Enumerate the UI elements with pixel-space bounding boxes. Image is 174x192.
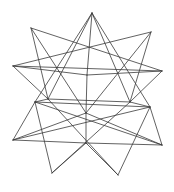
edge-T-ML1 <box>35 13 92 102</box>
star-polyhedron-wireframe <box>0 0 174 192</box>
edge-UL-ML2 <box>31 28 48 99</box>
edge-LR-C2 <box>86 113 162 145</box>
edge-C1-C2 <box>86 75 87 113</box>
polyhedron-figure <box>0 0 174 192</box>
edge-ML1-LL <box>13 102 35 140</box>
edge-T-MR1 <box>92 13 130 102</box>
edge-L-ML2 <box>13 66 48 99</box>
edge-ML2-BR <box>48 99 118 175</box>
edge-ML2-MR1 <box>48 99 130 102</box>
edge-N-BL <box>52 143 86 173</box>
edge-LL-N <box>13 140 86 143</box>
edge-LR-N <box>86 143 162 145</box>
edge-ML1-BL <box>35 102 52 173</box>
edge-N-BR <box>86 143 118 175</box>
edge-LL-C2 <box>13 113 86 140</box>
edge-T-C1 <box>87 13 92 75</box>
edge-R-C1 <box>87 71 162 75</box>
edge-MR2-BR <box>118 107 150 175</box>
edge-T-MR2 <box>92 13 150 107</box>
edge-MR2-LR <box>150 107 162 145</box>
